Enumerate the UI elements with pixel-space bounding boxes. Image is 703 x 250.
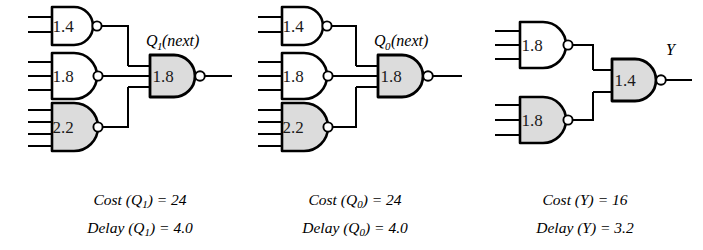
- gate-delay-label: 2.2: [52, 118, 73, 137]
- wire-top-to-output: [573, 45, 593, 70]
- gate-delay-label: 1.8: [152, 67, 173, 86]
- gate-delay-label: 1.4: [614, 71, 636, 90]
- gate-nand-2-2-bottom: 2.2: [28, 103, 103, 151]
- gate-nand-1-8-output: 1.8: [378, 55, 462, 97]
- caption-q0: Cost (Q0) = 24 Delay (Q0) = 4.0: [255, 188, 455, 244]
- cost-line-q0: Cost (Q0) = 24: [255, 188, 455, 216]
- cost-var: Q: [131, 191, 142, 208]
- delay-var: Q: [133, 219, 144, 236]
- panel-q0-next: 1.4 1.8 2.2: [258, 7, 462, 151]
- gate-nand-2-2-bottom: 2.2: [258, 103, 333, 151]
- gate-nand-1-4-top: 1.4: [28, 7, 102, 45]
- delay-line-q1: Delay (Q1) = 4.0: [40, 216, 240, 244]
- cost-prefix: Cost (: [308, 191, 345, 208]
- inversion-bubble: [93, 122, 102, 131]
- delay-var: Y: [582, 219, 591, 236]
- inversion-bubble: [322, 21, 331, 30]
- wire-bottom-to-output: [573, 92, 593, 120]
- output-label-base: Y: [666, 41, 677, 58]
- delay-prefix: Delay (: [536, 219, 582, 236]
- delay-var: Q: [348, 219, 359, 236]
- caption-q1: Cost (Q1) = 24 Delay (Q1) = 4.0: [40, 188, 240, 244]
- inversion-bubble: [93, 71, 102, 80]
- gate-nand-1-4-output: 1.4: [612, 59, 692, 101]
- inversion-bubble: [423, 71, 433, 81]
- delay-line-q0: Delay (Q0) = 4.0: [255, 216, 455, 244]
- delay-value: 3.2: [614, 219, 633, 236]
- gate-delay-label: 1.8: [282, 67, 303, 86]
- gate-nand-1-8-bottom: 1.8: [495, 97, 573, 143]
- cost-var: Y: [580, 191, 589, 208]
- inversion-bubble: [195, 71, 205, 81]
- gate-nand-1-8-output: 1.8: [150, 55, 232, 97]
- inversion-bubble: [656, 75, 666, 85]
- inversion-bubble: [563, 115, 572, 124]
- output-signal-label: Q 0 (next): [374, 32, 428, 52]
- caption-y: Cost (Y) = 16 Delay (Y) = 3.2: [485, 188, 685, 244]
- gate-delay-label: 1.4: [282, 17, 304, 36]
- cost-line-y: Cost (Y) = 16: [485, 188, 685, 216]
- delay-value: 4.0: [173, 219, 192, 236]
- output-label-tail: (next): [162, 32, 199, 50]
- gate-nand-1-8-mid: 1.8: [258, 53, 333, 99]
- output-label-tail: (next): [391, 32, 428, 50]
- cost-value: 24: [386, 191, 402, 208]
- cost-suffix: ) =: [148, 191, 171, 208]
- inversion-bubble: [92, 21, 101, 30]
- wire-bottom-to-output: [103, 87, 128, 127]
- gate-delay-label: 1.8: [521, 111, 542, 130]
- delay-value: 4.0: [388, 219, 407, 236]
- panel-q1-next: 1.4 1.8 2.2: [28, 7, 232, 151]
- inversion-bubble: [563, 40, 572, 49]
- gate-delay-label: 1.4: [52, 17, 74, 36]
- cost-prefix: Cost (: [543, 191, 580, 208]
- cost-value: 24: [171, 191, 187, 208]
- inversion-bubble: [323, 122, 332, 131]
- delay-suffix: ) =: [365, 219, 388, 236]
- gate-nand-1-8-mid: 1.8: [28, 53, 103, 99]
- delay-line-y: Delay (Y) = 3.2: [485, 216, 685, 244]
- delay-suffix: ) =: [150, 219, 173, 236]
- wire-top-to-output: [102, 26, 128, 66]
- delay-prefix: Delay (: [87, 219, 133, 236]
- inversion-bubble: [323, 71, 332, 80]
- cost-suffix: ) =: [363, 191, 386, 208]
- cost-suffix: ) =: [589, 191, 612, 208]
- cost-prefix: Cost (: [93, 191, 130, 208]
- panel-y-output: 1.8 1.8 1.4 Y: [495, 22, 692, 143]
- wire-bottom-to-output: [333, 87, 356, 127]
- cost-var: Q: [346, 191, 357, 208]
- gate-delay-label: 2.2: [282, 118, 303, 137]
- figure-root: 1.4 1.8 2.2: [0, 0, 703, 250]
- gate-delay-label: 1.8: [52, 67, 73, 86]
- output-signal-label: Q 1 (next): [146, 32, 199, 52]
- gate-delay-label: 1.8: [521, 36, 542, 55]
- gate-delay-label: 1.8: [380, 67, 401, 86]
- wire-top-to-output: [332, 26, 356, 66]
- output-signal-label: Y: [666, 41, 677, 58]
- delay-suffix: ) =: [591, 219, 614, 236]
- gate-nand-1-4-top: 1.4: [258, 7, 332, 45]
- cost-line-q1: Cost (Q1) = 24: [40, 188, 240, 216]
- delay-prefix: Delay (: [302, 219, 348, 236]
- gate-nand-1-8-top: 1.8: [495, 22, 573, 68]
- cost-value: 16: [612, 191, 628, 208]
